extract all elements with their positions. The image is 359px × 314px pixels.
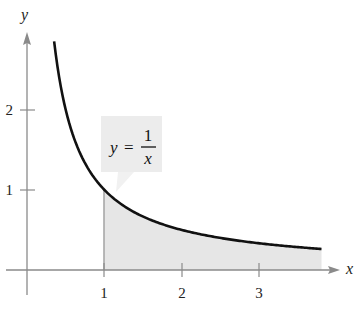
y-tick-label-1: 1 bbox=[6, 182, 14, 198]
equation-label: y = 1 x bbox=[101, 116, 162, 192]
equation-equals: = bbox=[124, 138, 134, 157]
x-axis-label: x bbox=[345, 260, 353, 277]
equation-callout-pointer bbox=[116, 172, 134, 192]
curve-y-equals-1-over-x bbox=[54, 41, 321, 249]
shaded-area bbox=[105, 190, 322, 270]
y-axis-label: y bbox=[19, 6, 29, 24]
x-tick-label-3: 3 bbox=[255, 285, 263, 301]
equation-numerator: 1 bbox=[144, 126, 153, 145]
x-tick-label-1: 1 bbox=[100, 285, 108, 301]
chart: 1 2 3 1 2 x y y = 1 x bbox=[0, 0, 359, 314]
x-tick-label-2: 2 bbox=[178, 285, 186, 301]
equation-lhs: y bbox=[108, 138, 118, 157]
y-tick-label-2: 2 bbox=[6, 102, 14, 118]
equation-denominator: x bbox=[143, 149, 152, 168]
